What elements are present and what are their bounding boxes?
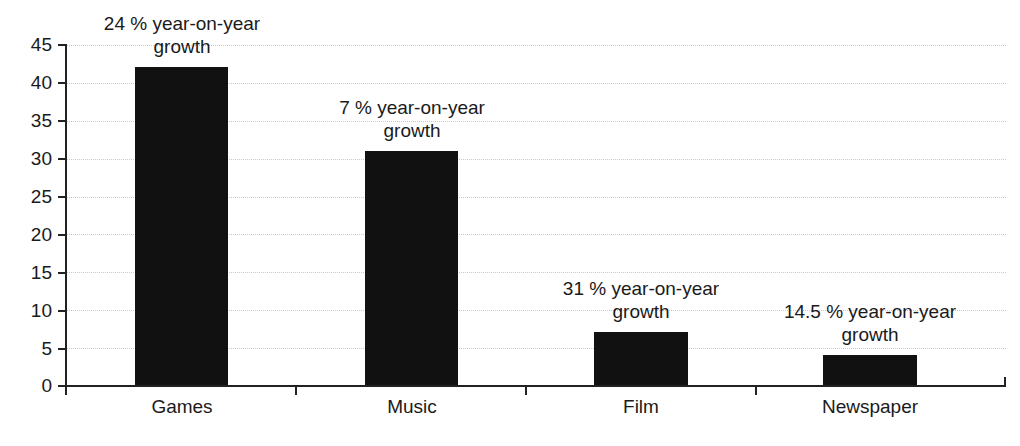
y-tick-10 xyxy=(58,310,66,312)
x-tick-3 xyxy=(755,386,757,395)
y-tick-20 xyxy=(58,234,66,236)
annotation-newspaper-line2: growth xyxy=(750,323,990,346)
x-axis-line xyxy=(65,385,1006,387)
x-tick-4 xyxy=(1004,377,1006,386)
x-category-label-newspaper: Newspaper xyxy=(799,396,941,418)
y-tick-label-5: 5 xyxy=(8,339,52,358)
y-axis-line xyxy=(65,44,67,388)
y-tick-label-20: 20 xyxy=(8,225,52,244)
annotation-film: 31 % year-on-year growth xyxy=(521,277,761,323)
bar-newspaper[interactable] xyxy=(823,355,917,385)
x-category-label-film: Film xyxy=(570,396,712,418)
y-tick-15 xyxy=(58,272,66,274)
y-tick-5 xyxy=(58,348,66,350)
y-tick-label-45: 45 xyxy=(8,35,52,54)
annotation-newspaper-line1: 14.5 % year-on-year xyxy=(784,301,956,322)
y-tick-label-25: 25 xyxy=(8,187,52,206)
annotation-music-line2: growth xyxy=(292,119,532,142)
x-tick-2 xyxy=(525,386,527,395)
annotation-games-line2: growth xyxy=(62,35,302,58)
x-tick-0 xyxy=(65,386,67,395)
y-tick-label-40: 40 xyxy=(8,73,52,92)
bar-games[interactable] xyxy=(135,67,228,385)
x-tick-1 xyxy=(295,386,297,395)
y-tick-label-30: 30 xyxy=(8,149,52,168)
y-tick-25 xyxy=(58,196,66,198)
annotation-film-line1: 31 % year-on-year xyxy=(563,278,719,299)
y-tick-label-10: 10 xyxy=(8,301,52,320)
annotation-games-line1: 24 % year-on-year xyxy=(104,13,260,34)
annotation-newspaper: 14.5 % year-on-year growth xyxy=(750,300,990,346)
y-tick-40 xyxy=(58,82,66,84)
y-tick-label-15: 15 xyxy=(8,263,52,282)
annotation-music: 7 % year-on-year growth xyxy=(292,96,532,142)
bar-chart: 45 40 35 30 25 20 15 10 5 0 Games Music … xyxy=(0,0,1020,446)
bar-music[interactable] xyxy=(365,151,458,385)
y-tick-label-35: 35 xyxy=(8,111,52,130)
x-category-label-music: Music xyxy=(341,396,483,418)
x-category-label-games: Games xyxy=(111,396,253,418)
y-axis-labels: 45 40 35 30 25 20 15 10 5 0 xyxy=(0,0,52,446)
y-tick-label-0: 0 xyxy=(8,376,52,395)
bar-film[interactable] xyxy=(594,332,688,385)
annotation-music-line1: 7 % year-on-year xyxy=(339,97,485,118)
annotation-games: 24 % year-on-year growth xyxy=(62,12,302,58)
annotation-film-line2: growth xyxy=(521,300,761,323)
y-tick-30 xyxy=(58,158,66,160)
y-tick-35 xyxy=(58,120,66,122)
